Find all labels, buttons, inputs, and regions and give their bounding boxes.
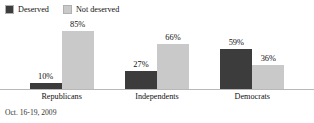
bar-group-democrats: 59% 36% [220,49,284,90]
bar-value-republicans-deserved: 10% [30,72,62,82]
x-tick-label-independents: Independents [125,91,189,103]
chart-legend: Deserved Not deserved [5,3,119,16]
bar-wrap-democrats-deserved: 59% [220,49,252,90]
x-tick-label-republicans: Republicans [30,91,94,103]
bar-group-independents: 27% 66% [125,44,189,90]
legend-label-not-deserved: Not deserved [76,5,119,14]
chart-plot-area: 10% 85% 27% 66% 59% 36% [0,20,314,90]
bar-republicans-not-deserved [62,31,94,90]
bar-value-democrats-deserved: 59% [220,38,252,48]
legend-label-deserved: Deserved [18,5,49,14]
bar-democrats-not-deserved [252,65,284,90]
bar-value-democrats-not-deserved: 36% [252,54,284,64]
bar-wrap-independents-not-deserved: 66% [157,44,189,90]
bar-groups: 10% 85% 27% 66% 59% 36% [0,21,314,90]
bar-democrats-deserved [220,49,252,90]
bar-wrap-democrats-not-deserved: 36% [252,65,284,90]
bar-group-republicans: 10% 85% [30,31,94,90]
x-axis-line [0,89,314,90]
legend-swatch-not-deserved [63,5,72,14]
legend-swatch-deserved [5,5,14,14]
bar-value-independents-deserved: 27% [125,60,157,70]
chart-footnote: Oct. 16-19, 2009 [5,108,56,118]
legend-item-not-deserved: Not deserved [63,5,119,14]
legend-item-deserved: Deserved [5,5,49,14]
bar-wrap-independents-deserved: 27% [125,71,157,90]
x-tick-label-democrats: Democrats [220,91,284,103]
bar-value-independents-not-deserved: 66% [157,33,189,43]
bar-value-republicans-not-deserved: 85% [62,20,94,30]
x-axis-tick-labels: Republicans Independents Democrats [0,91,314,103]
bar-independents-not-deserved [157,44,189,90]
bar-independents-deserved [125,71,157,90]
bar-wrap-republicans-not-deserved: 85% [62,31,94,90]
